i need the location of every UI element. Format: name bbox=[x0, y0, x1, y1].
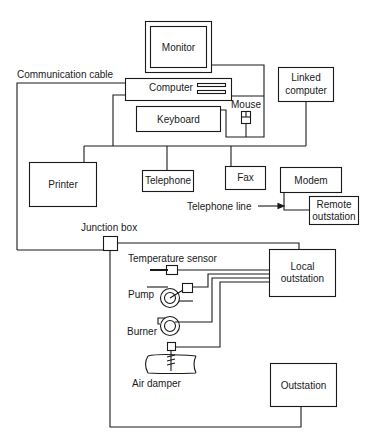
temperature-sensor-box bbox=[167, 266, 178, 275]
pump-label: Pump bbox=[128, 289, 154, 300]
modem-remote-link bbox=[284, 192, 309, 210]
communication-cable-label: Communication cable bbox=[17, 69, 113, 80]
keyboard-label: Keyboard bbox=[136, 114, 221, 125]
local-outstation-label-line1: Local bbox=[269, 261, 336, 272]
burner-inner-circle bbox=[165, 321, 176, 332]
computer-bus-drop bbox=[113, 95, 125, 146]
junction-local-cable bbox=[117, 243, 299, 249]
remote-outstation-label-line1: Remote bbox=[309, 199, 359, 210]
printer-label: Printer bbox=[29, 179, 97, 190]
remote-outstation-label-line2: outstation bbox=[309, 211, 359, 222]
junction-box-label: Junction box bbox=[81, 222, 137, 233]
temperature-sensor-label: Temperature sensor bbox=[128, 253, 217, 264]
modem-label: Modem bbox=[280, 175, 342, 186]
burner-outer-circle bbox=[161, 317, 180, 336]
outstation-label: Outstation bbox=[270, 380, 337, 391]
computer-drive-slot-1 bbox=[198, 84, 226, 87]
fax-label: Fax bbox=[225, 172, 266, 183]
linked-computer-label-line2: computer bbox=[278, 85, 334, 96]
air-damper-label: Air damper bbox=[132, 378, 181, 389]
pump-sensor-box bbox=[183, 284, 193, 293]
local-outstation-label-line2: outstation bbox=[269, 273, 336, 284]
mouse-label: Mouse bbox=[231, 99, 261, 110]
telephone-label: Telephone bbox=[142, 175, 194, 186]
air-damper-actuator-box bbox=[168, 343, 176, 351]
burner-label: Burner bbox=[127, 326, 157, 337]
linked-computer-label-line1: Linked bbox=[278, 72, 334, 83]
telephone-line-label: Telephone line bbox=[187, 201, 252, 212]
monitor-label: Monitor bbox=[150, 42, 207, 53]
junction-box bbox=[104, 237, 118, 251]
computer-drive-slot-2 bbox=[198, 91, 226, 94]
computer-label: Computer bbox=[149, 82, 193, 93]
